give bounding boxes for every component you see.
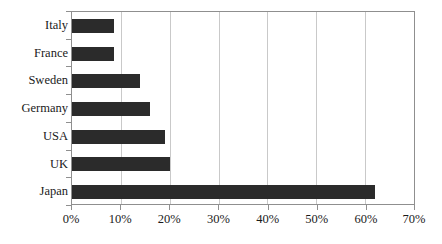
- y-axis-label-italy: Italy: [0, 18, 68, 32]
- y-axis-labels: Italy France Sweden Germany USA UK Japan: [0, 11, 68, 205]
- bar-germany: [72, 102, 150, 116]
- x-axis-tick-40: [268, 205, 269, 210]
- x-axis-label-20: 20%: [158, 212, 181, 227]
- y-axis-label-germany: Germany: [0, 101, 68, 115]
- x-axis-label-60: 60%: [354, 212, 377, 227]
- x-axis-label-30: 30%: [207, 212, 230, 227]
- y-axis-label-france: France: [0, 46, 68, 60]
- bar-uk: [72, 157, 170, 171]
- bar-italy: [72, 19, 114, 33]
- bar-row-france: [72, 40, 414, 68]
- x-axis-tick-20: [169, 205, 170, 210]
- bar-row-germany: [72, 95, 414, 123]
- x-axis-tick-50: [317, 205, 318, 210]
- x-axis-tick-10: [120, 205, 121, 210]
- bar-row-italy: [72, 12, 414, 40]
- bar-france: [72, 47, 114, 61]
- y-axis-label-usa: USA: [0, 129, 68, 143]
- y-axis-label-japan: Japan: [0, 184, 68, 198]
- x-axis-tick-60: [366, 205, 367, 210]
- y-axis-label-uk: UK: [0, 157, 68, 171]
- plot-area: [71, 11, 415, 205]
- bar-japan: [72, 185, 375, 199]
- x-axis: 0% 10% 20% 30% 40% 50% 60% 70%: [71, 205, 415, 235]
- x-axis-label-0: 0%: [63, 212, 80, 227]
- bar-sweden: [72, 74, 140, 88]
- bar-row-usa: [72, 123, 414, 151]
- x-axis-label-40: 40%: [256, 212, 279, 227]
- x-axis-tick-0: [71, 205, 72, 210]
- x-axis-tick-30: [218, 205, 219, 210]
- bar-chart: Italy France Sweden Germany USA UK Japan: [0, 0, 442, 244]
- x-axis-tick-70: [414, 205, 415, 210]
- x-axis-label-50: 50%: [305, 212, 328, 227]
- bar-row-japan: [72, 178, 414, 206]
- bar-usa: [72, 130, 165, 144]
- bar-row-uk: [72, 151, 414, 179]
- x-axis-label-10: 10%: [109, 212, 132, 227]
- y-axis-label-sweden: Sweden: [0, 73, 68, 87]
- x-axis-label-70: 70%: [403, 212, 426, 227]
- bar-row-sweden: [72, 67, 414, 95]
